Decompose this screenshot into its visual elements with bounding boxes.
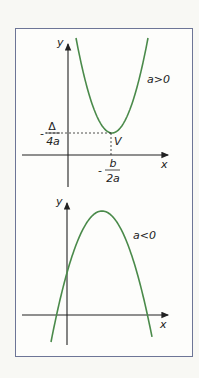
case-label-a-negative: a<0 [133, 229, 156, 242]
vertex-y-numerator: Δ [48, 120, 56, 133]
upper-parabola-curve [76, 38, 148, 133]
vertex-y-denominator: 4a [46, 135, 60, 148]
vertex-x-sign: - [98, 164, 102, 177]
vertex-y-sign: - [40, 127, 44, 140]
upper-x-label: x [160, 158, 168, 171]
vertex-x-denominator: 2a [106, 172, 120, 185]
panel-a-positive: y x a>0 V - Δ 4a - b 2a [22, 36, 170, 187]
case-label-a-positive: a>0 [147, 73, 170, 86]
lower-x-label: x [159, 318, 167, 331]
vertex-label: V [114, 135, 123, 148]
panel-a-negative: y x a<0 [22, 195, 168, 345]
vertex-y-fraction: - Δ 4a [40, 120, 60, 148]
vertex-x-numerator: b [110, 157, 117, 170]
parabola-figure: y x a>0 V - Δ 4a - b 2a y x a<0 [0, 0, 199, 378]
upper-y-label: y [56, 36, 64, 49]
lower-y-label: y [55, 195, 63, 208]
vertex-x-fraction: - b 2a [98, 157, 120, 185]
